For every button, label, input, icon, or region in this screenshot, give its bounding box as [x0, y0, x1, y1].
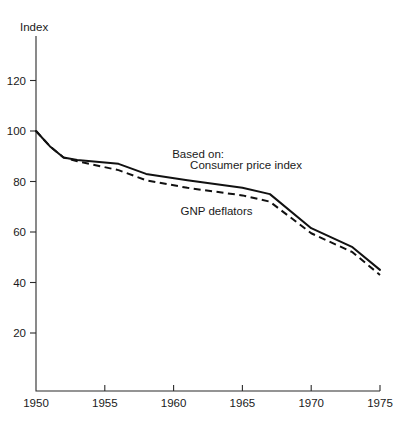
y-axis-title: Index	[20, 21, 48, 33]
chart-annotations-group: Based on:Consumer price indexGNP deflato…	[172, 148, 302, 218]
y-axis-ticks: 20406080100120	[7, 75, 36, 340]
chart-annotation: GNP deflators	[181, 205, 253, 217]
chart-container: 20406080100120 195019551960196519701975 …	[0, 0, 407, 426]
chart-annotation: Consumer price index	[190, 159, 302, 171]
y-tick-label: 40	[13, 277, 26, 289]
x-tick-label: 1970	[298, 397, 324, 409]
index-line-chart: 20406080100120 195019551960196519701975 …	[0, 0, 407, 426]
y-tick-label: 80	[13, 176, 26, 188]
x-tick-label: 1955	[92, 397, 118, 409]
x-tick-label: 1950	[23, 397, 49, 409]
y-tick-label: 120	[7, 75, 26, 87]
y-tick-label: 20	[13, 327, 26, 339]
chart-annotation: Based on:	[172, 148, 224, 160]
y-tick-label: 100	[7, 125, 26, 137]
y-tick-label: 60	[13, 226, 26, 238]
x-axis-ticks: 195019551960196519701975	[23, 385, 393, 409]
x-tick-label: 1965	[230, 397, 256, 409]
x-tick-label: 1960	[161, 397, 187, 409]
x-tick-label: 1975	[367, 397, 393, 409]
